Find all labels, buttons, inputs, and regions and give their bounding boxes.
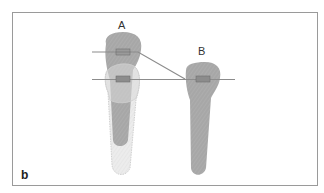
tooth-b-label: B [198, 45, 205, 57]
tooth-a-ghost-crown [105, 64, 139, 103]
tooth-a-label: A [118, 19, 125, 31]
figure-frame [13, 13, 318, 186]
bracket-a-upper [116, 49, 130, 55]
orthodontic-diagram [0, 0, 324, 193]
bracket-a-lower [116, 76, 130, 82]
panel-label: b [21, 168, 28, 182]
bracket-b [196, 76, 210, 82]
